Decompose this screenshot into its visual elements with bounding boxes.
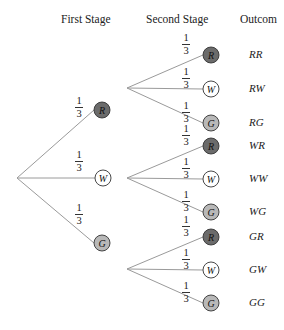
fraction-numerator: 1 <box>181 124 191 134</box>
fraction-denominator: 3 <box>181 170 191 180</box>
second-stage-probability: 13 <box>181 101 191 124</box>
outcome-wr: WR <box>249 139 265 151</box>
fraction-numerator: 1 <box>181 101 191 111</box>
node-label: R <box>207 50 214 61</box>
second-stage-probability: 13 <box>181 124 191 147</box>
second-stage-node-rw: W <box>203 81 219 97</box>
fraction-numerator: 1 <box>74 150 84 160</box>
second-stage-branch <box>127 269 203 303</box>
header-outcome: Outcom <box>240 13 277 25</box>
second-stage-node-gg: G <box>203 295 219 311</box>
fraction-denominator: 3 <box>181 261 191 271</box>
second-stage-probability: 13 <box>181 33 191 56</box>
fraction-denominator: 3 <box>181 228 191 238</box>
fraction-numerator: 1 <box>181 215 191 225</box>
header-first-stage: First Stage <box>61 13 111 25</box>
outcome-gr: GR <box>249 230 264 242</box>
node-label: G <box>98 238 105 249</box>
second-stage-node-rr: R <box>203 47 219 63</box>
outcome-gw: GW <box>249 263 266 275</box>
node-label: R <box>98 105 105 116</box>
node-label: R <box>207 232 214 243</box>
first-stage-probability: 13 <box>74 150 84 173</box>
fraction-denominator: 3 <box>74 109 84 119</box>
node-label: R <box>207 141 214 152</box>
fraction-denominator: 3 <box>181 46 191 56</box>
fraction-denominator: 3 <box>181 137 191 147</box>
outcome-rw: RW <box>249 82 265 94</box>
outcome-rr: RR <box>249 48 262 60</box>
fraction-numerator: 1 <box>181 67 191 77</box>
first-stage-node-r: R <box>94 102 110 118</box>
second-stage-branch <box>127 146 203 178</box>
fraction-numerator: 1 <box>74 203 84 213</box>
second-stage-node-wr: R <box>203 138 219 154</box>
second-stage-probability: 13 <box>181 157 191 180</box>
fraction-numerator: 1 <box>181 281 191 291</box>
outcome-wg: WG <box>249 205 266 217</box>
second-stage-branch <box>127 88 203 123</box>
second-stage-node-ww: W <box>203 171 219 187</box>
outcome-gg: GG <box>249 296 265 308</box>
first-stage-node-w: W <box>95 170 111 186</box>
first-stage-node-g: G <box>94 235 110 251</box>
second-stage-node-rg: G <box>203 115 219 131</box>
second-stage-branch <box>127 269 203 270</box>
first-stage-probability: 13 <box>74 203 84 226</box>
fraction-numerator: 1 <box>181 248 191 258</box>
fraction-denominator: 3 <box>74 163 84 173</box>
fraction-numerator: 1 <box>74 96 84 106</box>
second-stage-probability: 13 <box>181 190 191 213</box>
fraction-numerator: 1 <box>181 190 191 200</box>
header-second-stage: Second Stage <box>146 13 208 25</box>
fraction-denominator: 3 <box>74 216 84 226</box>
second-stage-branch <box>127 178 203 179</box>
node-label: G <box>207 298 214 309</box>
first-stage-probability: 13 <box>74 96 84 119</box>
second-stage-probability: 13 <box>181 248 191 271</box>
fraction-denominator: 3 <box>181 80 191 90</box>
second-stage-node-gw: W <box>203 262 219 278</box>
outcome-ww: WW <box>249 172 267 184</box>
second-stage-probability: 13 <box>181 67 191 90</box>
second-stage-node-gr: R <box>203 229 219 245</box>
node-label: G <box>207 118 214 129</box>
second-stage-branch <box>127 237 203 269</box>
fraction-numerator: 1 <box>181 33 191 43</box>
second-stage-branch <box>127 55 203 88</box>
fraction-denominator: 3 <box>181 294 191 304</box>
outcome-rg: RG <box>249 116 264 128</box>
tree-diagram: RRWGWRWGGRWG <box>0 0 284 330</box>
second-stage-branch <box>127 178 203 212</box>
second-stage-probability: 13 <box>181 215 191 238</box>
fraction-numerator: 1 <box>181 157 191 167</box>
node-label: G <box>207 207 214 218</box>
fraction-denominator: 3 <box>181 203 191 213</box>
second-stage-node-wg: G <box>203 204 219 220</box>
second-stage-branch <box>127 88 203 89</box>
second-stage-probability: 13 <box>181 281 191 304</box>
